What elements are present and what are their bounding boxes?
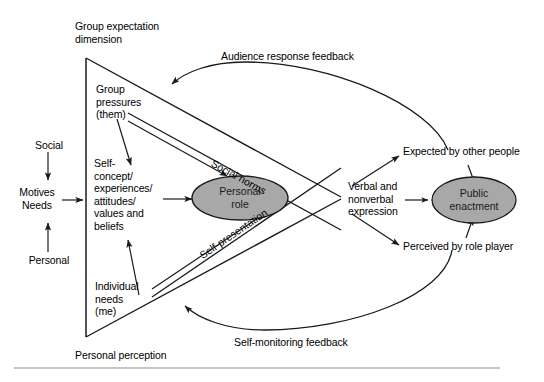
input-individual-needs: Individual needs (me) [95,280,138,318]
input-group-pressures: Group pressures (them) [96,83,141,121]
group-expectation-dimension-title: Group expectation dimension [75,20,159,45]
axis-label-social: Social [18,139,80,152]
expression-perceived-by-role-player: Perceived by role player [403,240,513,253]
diagram-canvas: Group expectation dimension Personal per… [0,0,544,382]
node-public-enactment[interactable] [432,177,516,223]
expression-verbal-nonverbal: Verbal and nonverbal expression [348,180,398,218]
feedback-label-audience-response: Audience response feedback [221,50,354,63]
personal-perception-title: Personal perception [75,349,167,362]
axis-label-personal: Personal [14,254,84,267]
audience-response-feedback-arc [172,62,448,150]
feedback-label-self-monitoring: Self-monitoring feedback [234,336,348,349]
axis-label-motives-needs: Motives Needs [12,186,62,211]
expression-expected-by-other-people: Expected by other people [403,145,520,158]
input-self-concept: Self- concept/ experiences/ attitudes/ v… [94,157,152,233]
